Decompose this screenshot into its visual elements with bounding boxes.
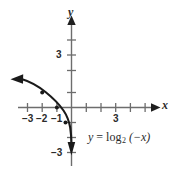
- log-curve: [22, 79, 72, 144]
- y-tick-label-neg3: −3: [51, 148, 62, 158]
- y-axis-label: y: [68, 6, 73, 18]
- data-point-marker: [40, 91, 44, 95]
- data-point-marker: [64, 121, 68, 125]
- x-axis-label: x: [162, 99, 168, 111]
- curve-left-arrowhead-icon: [11, 74, 24, 84]
- data-point-marker: [55, 106, 59, 110]
- x-tick-label-pos3: 3: [113, 114, 119, 124]
- x-tick-label-neg2: −2: [36, 114, 47, 124]
- log-function-graph-figure: −3 −2 −1 3 3 −3 x y y = log2 (−x): [0, 0, 173, 170]
- x-tick-label-neg3: −3: [22, 114, 33, 124]
- y-tick-label-pos3: 3: [56, 50, 62, 60]
- equation-function: log: [106, 130, 121, 144]
- x-tick-label-neg1: −1: [51, 114, 62, 124]
- curve-down-arrowhead-icon: [68, 142, 76, 156]
- equation-argument: (−x): [129, 130, 150, 144]
- x-axis-arrowhead-icon: [151, 103, 161, 111]
- equation-annotation: y = log2 (−x): [88, 131, 150, 145]
